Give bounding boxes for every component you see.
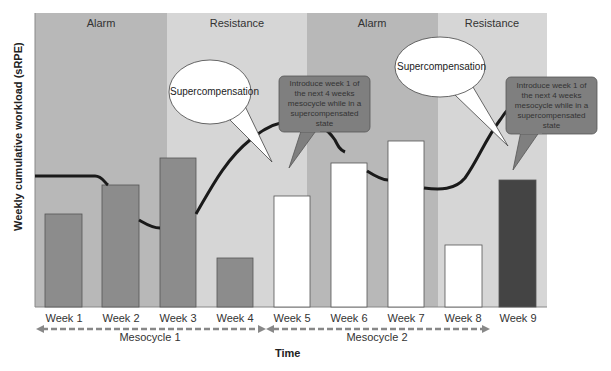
bar-week-7	[388, 141, 424, 307]
week-label-4: Week 4	[205, 312, 265, 324]
band-label-alarm-1: Alarm	[81, 17, 121, 29]
band-label-alarm-2: Alarm	[352, 17, 392, 29]
bar-week-9	[499, 180, 536, 307]
bar-week-3	[160, 158, 196, 307]
week-label-6: Week 6	[319, 312, 379, 324]
bar-week-4	[217, 258, 253, 307]
week-label-3: Week 3	[148, 312, 208, 324]
week-label-8: Week 8	[433, 312, 493, 324]
callout-1-text: Introduce week 1 of the next 4 weeks mes…	[279, 79, 370, 129]
band-label-resistance-2: Resistance	[462, 17, 522, 29]
week-label-7: Week 7	[376, 312, 436, 324]
bubble-2-text: Supercompensation	[397, 61, 483, 72]
week-label-5: Week 5	[262, 312, 322, 324]
week-label-2: Week 2	[91, 312, 151, 324]
bubble-1-text: Supercompensation	[170, 86, 250, 97]
week-label-9: Week 9	[488, 312, 548, 324]
bar-week-5	[274, 196, 310, 307]
week-label-1: Week 1	[34, 312, 94, 324]
mesocycle-2-label: Mesocycle 2	[317, 331, 437, 343]
mesocycle-1-label: Mesocycle 1	[90, 331, 210, 343]
callout-2-text: Introduce week 1 of the next 4 weeks mes…	[506, 81, 597, 131]
bar-week-2	[102, 185, 139, 307]
band-label-resistance-1: Resistance	[207, 17, 267, 29]
x-axis-label: Time	[275, 347, 300, 359]
bar-week-8	[445, 245, 482, 307]
y-axis-label: Weekly cumulative workload (sRPE)	[12, 81, 24, 231]
bar-week-6	[331, 163, 367, 307]
bar-week-1	[45, 214, 82, 307]
